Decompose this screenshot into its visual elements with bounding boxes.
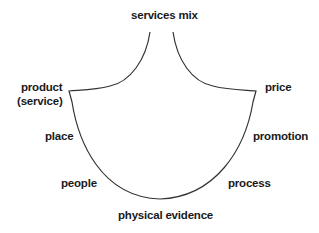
label-product: product xyxy=(21,81,62,94)
label-product-service: (service) xyxy=(17,95,63,108)
services-mix-outline xyxy=(69,32,256,199)
services-mix-shape xyxy=(0,0,319,233)
label-place: place xyxy=(45,130,73,143)
label-physical-evidence: physical evidence xyxy=(118,209,213,222)
label-people: people xyxy=(61,177,97,190)
label-process: process xyxy=(228,177,271,190)
label-price: price xyxy=(265,81,292,94)
title-services-mix: services mix xyxy=(131,9,198,22)
label-promotion: promotion xyxy=(253,130,308,143)
